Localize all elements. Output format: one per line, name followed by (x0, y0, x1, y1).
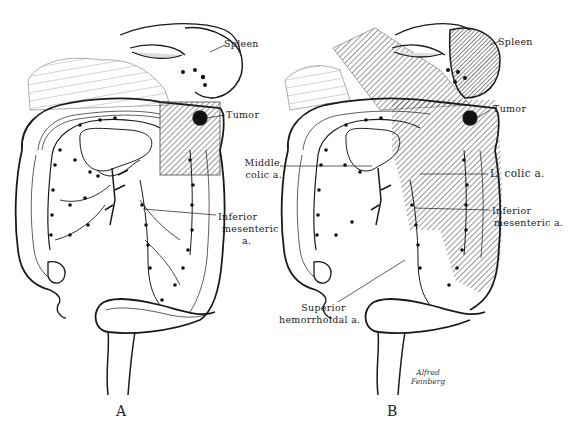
label-inferior-mesenteric-a-line2: mesenteric (222, 223, 279, 234)
label-spleen-a: Spleen (224, 38, 259, 49)
label-superior-hemorrhoidal-line1: Superior (276, 302, 371, 313)
resection-area-a (160, 102, 220, 175)
signature-line2: Feinberg (408, 377, 448, 386)
spleen-b (450, 28, 500, 98)
label-inferior-mesenteric-b-line1: Inferior (492, 205, 531, 216)
panel-letter-a: A (116, 403, 126, 419)
label-tumor-b: Tumor (493, 103, 526, 114)
colon-resection-illustration: Spleen Tumor Inferior mesenteric a. A Sp… (0, 0, 575, 425)
label-inferior-mesenteric-a-line1: Inferior (218, 211, 257, 222)
label-inferior-mesenteric-b-line2: mesenteric a. (494, 217, 563, 228)
panel-letter-b: B (387, 403, 397, 419)
label-left-colic: L. colic a. (490, 168, 545, 179)
label-superior-hemorrhoidal-line2: hemorrhoidal a. (279, 314, 360, 325)
label-middle-colic-line2: colic a. (230, 169, 282, 180)
label-tumor-a: Tumor (226, 109, 259, 120)
label-spleen-b: Spleen (498, 36, 533, 47)
artist-signature: Alfred Feinberg (408, 368, 448, 386)
label-inferior-mesenteric-a-line3: a. (242, 235, 251, 246)
tumor-a (193, 111, 207, 125)
tumor-b (463, 111, 477, 125)
signature-line1: Alfred (408, 368, 448, 377)
label-middle-colic-line1: Middle (240, 157, 280, 168)
resection-area-b (392, 100, 502, 292)
anatomical-drawing (0, 0, 575, 425)
panel-b (280, 24, 502, 395)
panel-a (16, 24, 243, 395)
